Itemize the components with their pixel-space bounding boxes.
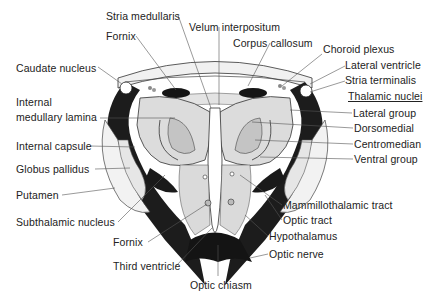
label-caudate-nucleus: Caudate nucleus <box>16 62 96 74</box>
label-optic-nerve: Optic nerve <box>269 248 324 260</box>
label-mammillothalamic-tract: Mammillothalamic tract <box>283 199 393 211</box>
corpus-callosum-shape <box>118 62 312 89</box>
third-ventricle-shape <box>208 108 222 233</box>
label-centromedian: Centromedian <box>354 138 421 150</box>
caudate-nucleus-right <box>300 85 312 97</box>
label-internal-capsule: Internal capsule <box>16 140 92 152</box>
label-thalamic-nuclei-heading: Thalamic nuclei <box>348 90 422 102</box>
label-lateral-group: Lateral group <box>353 107 416 119</box>
label-globus-pallidus: Globus pallidus <box>16 163 89 175</box>
label-putamen: Putamen <box>16 189 59 201</box>
label-dorsomedial: Dorsomedial <box>354 122 414 134</box>
label-third-ventricle: Third ventricle <box>113 260 180 272</box>
label-velum-interpositum: Velum interpositum <box>189 21 280 33</box>
label-internal-medullary-lamina-line1: Internal <box>16 96 52 108</box>
fornix-lower-left <box>205 200 211 206</box>
diagram-stage: Stria medullaris Fornix Velum interposit… <box>0 0 431 300</box>
label-optic-chiasm: Optic chiasm <box>190 279 252 291</box>
label-lateral-ventricle: Lateral ventricle <box>345 59 421 71</box>
label-optic-tract: Optic tract <box>283 214 332 226</box>
label-hypothalamus: Hypothalamus <box>269 230 337 242</box>
fornix-lower-right <box>228 199 234 205</box>
label-internal-medullary-lamina-line2: medullary lamina <box>16 111 97 123</box>
fornix-upper-right <box>239 88 267 98</box>
label-stria-terminalis: Stria terminalis <box>345 74 416 86</box>
label-corpus-callosum: Corpus callosum <box>233 37 313 49</box>
label-choroid-plexus: Choroid plexus <box>323 43 394 55</box>
label-stria-medullaris: Stria medullaris <box>106 10 180 22</box>
mammillothalamic-tract-right <box>230 172 234 176</box>
label-fornix-upper: Fornix <box>106 30 136 42</box>
label-subthalamic-nucleus: Subthalamic nucleus <box>16 216 115 228</box>
label-fornix-lower: Fornix <box>113 236 143 248</box>
mammillothalamic-tract-left <box>203 175 207 179</box>
label-ventral-group: Ventral group <box>354 153 418 165</box>
